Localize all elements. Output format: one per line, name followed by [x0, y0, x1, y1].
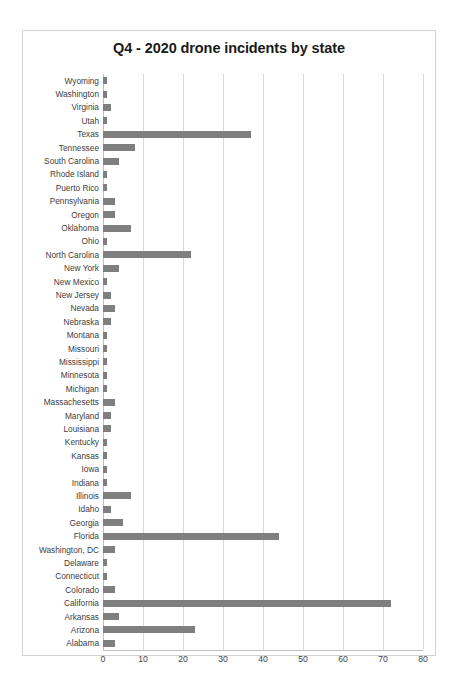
y-axis-label: New York — [64, 263, 99, 273]
bar-row — [103, 529, 423, 542]
y-axis-label: Kansas — [71, 451, 99, 461]
y-axis-label: Oklahoma — [61, 223, 99, 233]
x-tick-label-10: 10 — [138, 654, 148, 664]
bar — [103, 439, 107, 446]
bar — [103, 117, 107, 124]
bar-row — [103, 342, 423, 355]
bar — [103, 399, 115, 406]
y-axis-label: Virginia — [71, 102, 99, 112]
bar — [103, 345, 107, 352]
y-axis-label: Kentucky — [65, 437, 99, 447]
chart-title: Q4 - 2020 drone incidents by state — [23, 40, 435, 56]
bar — [103, 546, 115, 553]
y-axis-label: Georgia — [69, 518, 99, 528]
y-axis-label: Idaho — [78, 504, 99, 514]
x-tick-label-0: 0 — [101, 654, 106, 664]
bar — [103, 492, 131, 499]
bar — [103, 77, 107, 84]
bar-row — [103, 395, 423, 408]
chart-container: Q4 - 2020 drone incidents by state Wyomi… — [22, 30, 436, 656]
bar-row — [103, 489, 423, 502]
y-axis-label: Iowa — [81, 464, 99, 474]
bar-row — [103, 516, 423, 529]
bar-row — [103, 610, 423, 623]
bar-row — [103, 302, 423, 315]
bar — [103, 144, 135, 151]
y-axis-label: Nevada — [70, 303, 99, 313]
bar — [103, 91, 107, 98]
bar — [103, 372, 107, 379]
bar-row — [103, 462, 423, 475]
bar — [103, 171, 107, 178]
y-axis-label: Massachesetts — [44, 397, 99, 407]
bar — [103, 292, 111, 299]
y-axis-label: Indiana — [72, 478, 99, 488]
bar-row — [103, 583, 423, 596]
y-axis-label: Minnesota — [61, 370, 99, 380]
bar-row — [103, 195, 423, 208]
bar-row — [103, 248, 423, 261]
bar — [103, 104, 111, 111]
bar-row — [103, 382, 423, 395]
bar-row — [103, 369, 423, 382]
y-axis-label: Colorado — [65, 585, 99, 595]
y-axis-label: Rhode Island — [50, 169, 99, 179]
bar-row — [103, 275, 423, 288]
gridline-80 — [423, 74, 424, 650]
bar-row — [103, 409, 423, 422]
y-axis-label: Louisiana — [63, 424, 99, 434]
bar-row — [103, 141, 423, 154]
x-tick-label-60: 60 — [338, 654, 348, 664]
bar-row — [103, 623, 423, 636]
y-axis-label: Ohio — [81, 236, 99, 246]
bar — [103, 318, 111, 325]
bar-row — [103, 596, 423, 609]
y-axis-label: Arizona — [71, 625, 99, 635]
bar-row — [103, 570, 423, 583]
y-axis-label: Arkansas — [64, 612, 99, 622]
bar-row — [103, 449, 423, 462]
bar — [103, 211, 115, 218]
bar-row — [103, 476, 423, 489]
bar-row — [103, 128, 423, 141]
y-axis-label: Illinois — [76, 491, 99, 501]
y-axis-label: North Carolina — [46, 250, 100, 260]
bar-row — [103, 315, 423, 328]
bar — [103, 332, 107, 339]
bar — [103, 238, 107, 245]
y-axis-label: Delaware — [64, 558, 99, 568]
bar-row — [103, 154, 423, 167]
bar-row — [103, 556, 423, 569]
bar-row — [103, 168, 423, 181]
y-axis-label: Washington, DC — [39, 545, 99, 555]
bar-row — [103, 262, 423, 275]
x-tick-label-20: 20 — [178, 654, 188, 664]
bar — [103, 265, 119, 272]
bar-row — [103, 208, 423, 221]
bar — [103, 305, 115, 312]
bar — [103, 452, 107, 459]
x-tick-label-40: 40 — [258, 654, 268, 664]
bar — [103, 573, 107, 580]
bar-row — [103, 74, 423, 87]
y-axis-label: Texas — [77, 129, 99, 139]
bar-row — [103, 503, 423, 516]
bar — [103, 425, 111, 432]
bar-row — [103, 422, 423, 435]
y-axis-label: Michigan — [66, 384, 99, 394]
bar — [103, 198, 115, 205]
x-tick-label-80: 80 — [418, 654, 428, 664]
y-axis-label: Connecticut — [55, 571, 99, 581]
y-axis-label: Oregon — [71, 210, 99, 220]
bar — [103, 533, 279, 540]
x-tick-label-30: 30 — [218, 654, 228, 664]
y-axis-label: Pennsylvania — [50, 196, 99, 206]
bar — [103, 131, 251, 138]
bar — [103, 225, 131, 232]
y-axis-label: Washington — [55, 89, 99, 99]
bar-row — [103, 637, 423, 650]
bar — [103, 184, 107, 191]
bar — [103, 358, 107, 365]
bar — [103, 640, 115, 647]
y-axis-labels: WyomingWashingtonVirginiaUtahTexasTennes… — [23, 74, 99, 650]
